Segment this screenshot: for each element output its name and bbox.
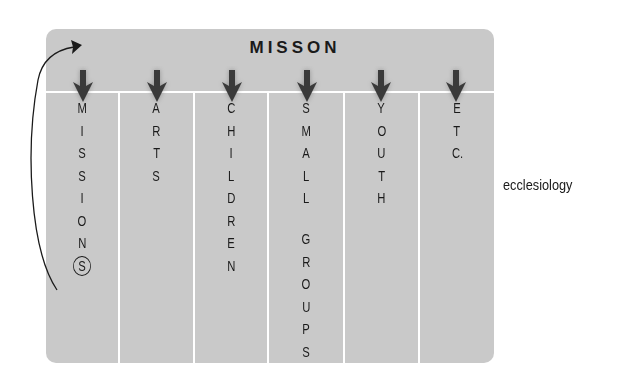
letter: R	[152, 120, 160, 143]
letter: L	[303, 187, 309, 210]
column-etc: E T C.	[420, 93, 494, 363]
letter: N	[227, 255, 235, 278]
letter: I	[80, 187, 83, 210]
column-children: C H I L D R E N	[195, 93, 267, 363]
letter: G	[302, 228, 311, 251]
down-arrow-icon	[293, 66, 321, 106]
down-arrow-icon	[143, 66, 171, 106]
letter: O	[377, 120, 386, 143]
letter: R	[302, 251, 310, 274]
letter: O	[302, 273, 311, 296]
letter: T	[153, 142, 160, 165]
letter: T	[454, 120, 461, 143]
column-small-groups: S M A L L G R O U P S	[269, 93, 343, 363]
letter: L	[228, 165, 234, 188]
down-arrow-icon	[442, 66, 470, 106]
letter: T	[378, 165, 385, 188]
letter: D	[227, 187, 235, 210]
down-arrow-icon	[218, 66, 246, 106]
ecclesiology-label: ecclesiology	[503, 176, 572, 193]
down-arrow-icon	[69, 66, 97, 106]
letter: M	[301, 120, 310, 143]
column-youth: Y O U T H	[345, 93, 418, 363]
letter: S	[73, 255, 91, 278]
letter: O	[78, 210, 87, 233]
letter: S	[302, 341, 310, 364]
letter: I	[80, 120, 83, 143]
letter: C.	[451, 142, 462, 165]
letter: U	[377, 142, 385, 165]
letter: S	[78, 165, 86, 188]
letter: A	[302, 142, 310, 165]
diagram-title: MISSON	[46, 38, 494, 58]
letter: I	[229, 142, 232, 165]
letter: N	[78, 232, 86, 255]
letter: S	[78, 142, 86, 165]
letter: E	[227, 232, 235, 255]
letter: R	[227, 210, 235, 233]
letter: H	[227, 120, 235, 143]
letter: H	[377, 187, 385, 210]
column-arts: A R T S	[120, 93, 193, 363]
letter: S	[153, 165, 161, 188]
letter: P	[302, 318, 310, 341]
circled-letter: S	[73, 256, 91, 276]
down-arrow-icon	[367, 66, 395, 106]
column-missions: M I S S I O N S	[46, 93, 118, 363]
letter: L	[303, 165, 309, 188]
letter: U	[302, 296, 310, 319]
